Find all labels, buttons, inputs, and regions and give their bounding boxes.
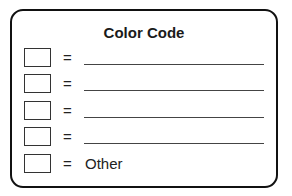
equals-sign: =	[63, 102, 72, 119]
equals-sign: =	[63, 128, 72, 145]
color-code-row-3: =	[24, 101, 274, 121]
equals-sign: =	[63, 155, 72, 172]
blank-label-line[interactable]	[84, 143, 264, 144]
color-code-row-1: =	[24, 48, 274, 68]
blank-label-line[interactable]	[84, 90, 264, 91]
color-code-row-other: = Other	[24, 154, 274, 174]
equals-sign: =	[63, 75, 72, 92]
blank-label-line[interactable]	[84, 117, 264, 118]
color-swatch-box[interactable]	[24, 154, 51, 173]
color-swatch-box[interactable]	[24, 127, 51, 146]
color-swatch-box[interactable]	[24, 74, 51, 93]
color-code-row-4: =	[24, 127, 274, 147]
card-title: Color Code	[12, 24, 276, 41]
other-label: Other	[85, 154, 123, 173]
color-code-card: Color Code = = = = = Other	[10, 9, 278, 188]
color-swatch-box[interactable]	[24, 101, 51, 120]
blank-label-line[interactable]	[84, 64, 264, 65]
color-code-row-2: =	[24, 74, 274, 94]
color-swatch-box[interactable]	[24, 48, 51, 67]
equals-sign: =	[63, 49, 72, 66]
